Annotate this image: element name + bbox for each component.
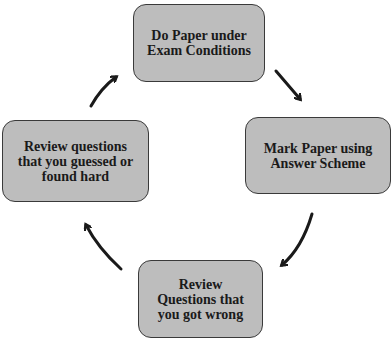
arrow-do-to-mark [276,71,300,99]
arrow-guessed-to-do [91,77,116,106]
arrow-mark-to-wrong [282,214,312,265]
arrow-wrong-to-guessed [86,225,121,269]
